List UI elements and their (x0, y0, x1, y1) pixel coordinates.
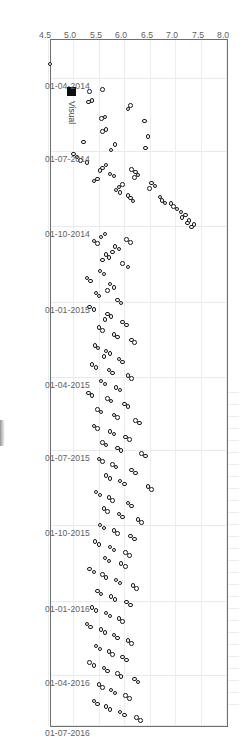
data-point (119, 674, 124, 679)
x-tick-label-01-04-2016: 01-04-2016 (45, 678, 90, 688)
data-point (123, 564, 128, 569)
chart-legend: Visual (67, 87, 77, 124)
data-point (143, 146, 148, 151)
x-tick-label-01-04-2015: 01-04-2015 (45, 380, 90, 390)
data-point (98, 647, 103, 652)
data-point (108, 707, 113, 712)
data-point (128, 603, 133, 608)
data-point (102, 526, 107, 531)
data-point (99, 116, 104, 121)
data-point (120, 619, 125, 624)
data-point (94, 365, 99, 370)
x-tick-label-01-01-2015: 01-01-2015 (45, 305, 90, 315)
data-point (112, 432, 117, 437)
rotated-chart-canvas: Visual 01-04-201401-07-201401-10-201401-… (0, 0, 242, 737)
data-point (92, 570, 97, 575)
data-point (107, 559, 112, 564)
data-point (132, 340, 137, 345)
data-point (133, 471, 138, 476)
data-point (112, 174, 117, 179)
data-point (90, 393, 95, 398)
gridline-horizontal-7 (226, 40, 227, 726)
data-point (132, 537, 137, 542)
data-point (129, 376, 134, 381)
data-point (98, 168, 103, 173)
data-point (126, 107, 131, 112)
data-point (115, 335, 120, 340)
y-tick-label-5.0: 5.0 (64, 30, 76, 40)
data-point (118, 581, 123, 586)
x-tick-label-01-04-2014: 01-04-2014 (45, 81, 90, 91)
x-tick-label-01-07-2015: 01-07-2015 (45, 453, 90, 463)
data-point (113, 142, 118, 147)
x-tick-label-01-10-2015: 01-10-2015 (45, 528, 90, 538)
data-point (114, 465, 119, 470)
data-point (108, 476, 113, 481)
data-point (118, 388, 123, 393)
y-tick-label-7.0: 7.0 (166, 30, 178, 40)
data-point (124, 323, 129, 328)
data-point (129, 504, 134, 509)
data-point (108, 351, 113, 356)
data-point (100, 87, 105, 92)
data-point (99, 592, 104, 597)
data-point (97, 542, 102, 547)
data-point (86, 100, 91, 105)
data-point (138, 718, 143, 723)
data-point (112, 548, 117, 553)
data-point (112, 285, 117, 290)
data-point (109, 314, 114, 319)
data-point (129, 641, 134, 646)
data-point (137, 421, 142, 426)
data-point (103, 382, 108, 387)
y-tick-label-7.5: 7.5 (192, 30, 204, 40)
data-point (95, 702, 100, 707)
x-tick-label-01-10-2014: 01-10-2014 (45, 229, 90, 239)
data-point (102, 272, 107, 277)
data-point (117, 247, 122, 252)
data-point (126, 404, 131, 409)
data-point (108, 614, 113, 619)
data-point (120, 182, 125, 187)
data-point (131, 199, 136, 204)
x-tick-label-01-07-2016: 01-07-2016 (45, 728, 90, 737)
data-point (139, 520, 144, 525)
data-point (92, 179, 97, 184)
data-point (105, 669, 110, 674)
data-point (102, 354, 107, 359)
data-point (98, 493, 103, 498)
data-point (94, 608, 99, 613)
data-point (88, 625, 93, 630)
data-point (189, 225, 194, 230)
data-point (48, 62, 53, 67)
y-tick-label-8.0: 8.0 (217, 30, 229, 40)
data-point (81, 140, 86, 145)
data-point (113, 597, 118, 602)
data-point (99, 235, 104, 240)
data-point (119, 448, 124, 453)
data-point (110, 371, 115, 376)
gridline-horizontal-5 (175, 40, 176, 726)
data-point (163, 201, 168, 206)
y-tick-label-5.5: 5.5 (90, 30, 102, 40)
data-point (143, 454, 148, 459)
data-point (103, 317, 108, 322)
data-point (104, 443, 109, 448)
data-point (109, 399, 114, 404)
data-point (153, 184, 158, 189)
data-point (142, 119, 147, 124)
data-point (127, 437, 132, 442)
data-point (120, 261, 125, 266)
data-point (132, 175, 137, 180)
data-point (149, 487, 154, 492)
y-tick-label-6.0: 6.0 (115, 30, 127, 40)
data-point (127, 553, 132, 558)
data-point (100, 258, 105, 263)
data-point (120, 515, 125, 520)
data-point (124, 658, 129, 663)
gridline-horizontal-6 (201, 40, 202, 726)
data-point (100, 328, 105, 333)
cropped-axis-title (0, 420, 5, 446)
data-point (119, 301, 124, 306)
data-point (100, 459, 105, 464)
